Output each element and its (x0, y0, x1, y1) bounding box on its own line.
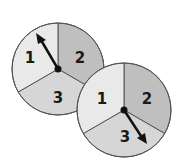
spinner-left-label-3: 3 (53, 89, 63, 107)
spinner-right-label-2: 2 (142, 90, 152, 108)
spinner-left-label-2: 2 (75, 49, 85, 67)
spinner-right-label-3: 3 (120, 128, 130, 146)
spinners-figure: 1 2 3 1 2 3 (0, 0, 180, 166)
spinner-right: 1 2 3 (77, 63, 171, 157)
spinner-right-label-1: 1 (97, 90, 107, 108)
spinner-left-label-1: 1 (25, 49, 35, 67)
